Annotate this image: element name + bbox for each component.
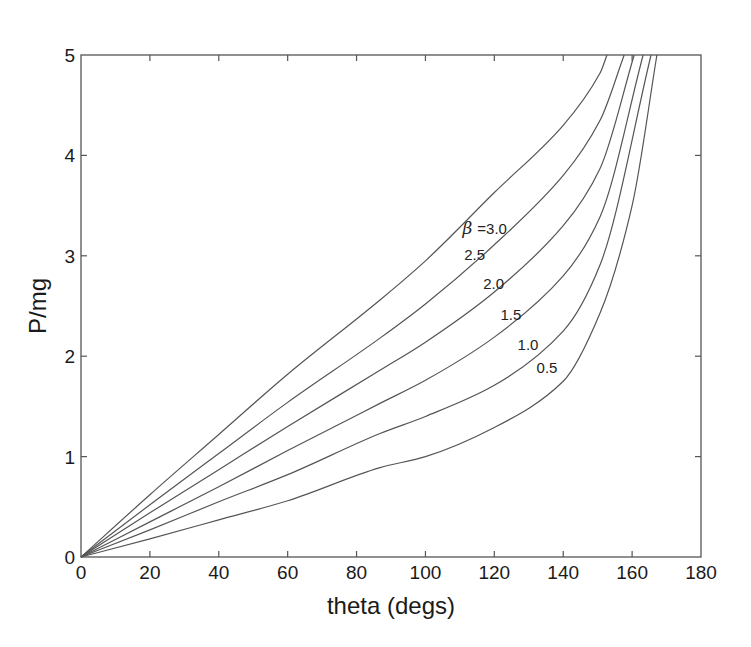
x-tick-label: 120 [478,562,510,583]
axis-ticks [81,55,701,557]
curve-label-beta-1-0: 1.0 [518,336,539,353]
y-tick-label: 3 [64,246,75,267]
x-tick-label: 100 [410,562,442,583]
curve-label-beta-1-5: 1.5 [500,306,521,323]
curve-label-beta-2-5: 2.5 [464,246,485,263]
chart: β=3.02.52.01.51.00.5 0204060801001201401… [0,0,751,647]
curve-beta-2-5 [81,55,624,557]
curves [81,55,657,557]
x-tick-label: 180 [685,562,717,583]
axes-frame [81,55,701,557]
y-tick-label: 1 [64,447,75,468]
beta-symbol: β [462,218,473,238]
y-axis-label: P/mg [24,278,51,334]
y-tick-label: 2 [64,346,75,367]
y-tick-label: 0 [64,547,75,568]
y-tick-label: 5 [64,45,75,66]
x-tick-label: 40 [208,562,229,583]
curve-label-beta-0-5: 0.5 [537,359,558,376]
x-axis-label: theta (degs) [327,592,455,619]
x-tick-labels: 020406080100120140160180 [76,562,717,583]
curve-beta-1-0 [81,55,651,557]
curve-label-beta-2-0: 2.0 [483,275,504,292]
x-tick-label: 160 [616,562,648,583]
x-tick-label: 0 [76,562,87,583]
y-tick-label: 4 [64,145,75,166]
x-tick-label: 20 [139,562,160,583]
curve-beta-0-5 [81,55,657,557]
curve-beta-3-0 [81,55,607,557]
x-tick-label: 140 [547,562,579,583]
y-tick-labels: 012345 [64,45,75,568]
plot-area: β=3.02.52.01.51.00.5 [81,55,701,557]
curve-label-beta-3-0: =3.0 [477,220,507,237]
x-tick-label: 60 [277,562,298,583]
x-tick-label: 80 [346,562,367,583]
